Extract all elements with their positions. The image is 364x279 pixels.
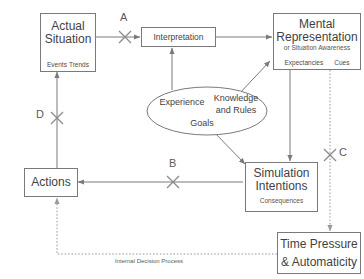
- link-marker-label-b: B: [169, 157, 176, 169]
- edge-timepressure-to-actions: [57, 198, 277, 254]
- simulation-intentions-subtitle: Consequences: [260, 197, 303, 205]
- actual-situation-slot-events: Events: [47, 61, 67, 68]
- node-time-pressure[interactable]: Time Pressure & Automaticity: [277, 232, 361, 274]
- link-marker-label-c: C: [339, 146, 347, 158]
- edge-ellipse-to-mental: [238, 61, 270, 95]
- interpretation-label: Interpretation: [153, 32, 203, 42]
- internal-decision-process-caption: Internal Decision Process: [115, 258, 183, 264]
- node-actions[interactable]: Actions: [24, 168, 78, 197]
- node-simulation-intentions[interactable]: Simulation Intentions Consequences: [245, 162, 318, 212]
- ellipse-item-experience: Experience: [152, 97, 212, 107]
- mental-representation-slot-expectancies: Expectancies: [285, 59, 324, 66]
- time-pressure-title-line2: & Automaticity: [281, 256, 357, 269]
- mental-representation-slots: Expectancies Cues: [274, 59, 360, 66]
- simulation-intentions-title-line2: Intentions: [255, 180, 307, 193]
- mental-representation-subtitle: or Situation Awareness: [284, 44, 350, 52]
- time-pressure-title-line1: Time Pressure: [280, 238, 358, 251]
- actual-situation-title-line2: Situation: [45, 33, 92, 46]
- link-marker-label-d: D: [36, 108, 44, 120]
- actual-situation-slots: Events Trends: [41, 61, 95, 68]
- actions-label: Actions: [31, 176, 70, 189]
- ellipse-item-knowledge-line1: Knowledge: [208, 93, 264, 103]
- ellipse-item-knowledge-line2: and Rules: [208, 105, 264, 115]
- decision-process-diagram: Actual Situation Events Trends Interpret…: [0, 0, 364, 279]
- mental-representation-title-line2: Representation: [276, 31, 357, 44]
- node-interpretation[interactable]: Interpretation: [141, 27, 216, 47]
- actual-situation-slot-trends: Trends: [69, 61, 89, 68]
- node-actual-situation[interactable]: Actual Situation Events Trends: [40, 13, 96, 72]
- mental-representation-slot-cues: Cues: [334, 59, 349, 66]
- ellipse-item-goals: Goals: [177, 118, 227, 128]
- link-marker-label-a: A: [120, 11, 127, 23]
- node-mental-representation[interactable]: Mental Representation or Situation Aware…: [273, 13, 361, 70]
